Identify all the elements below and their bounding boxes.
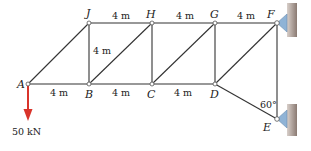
joint-b <box>87 82 91 86</box>
label-f: F <box>266 8 275 21</box>
load-label: 50 kN <box>12 126 41 137</box>
label-a: A <box>16 78 25 91</box>
member-df <box>215 23 277 84</box>
joint-d <box>213 82 217 86</box>
angle-label: 60° <box>260 99 277 110</box>
wall-top <box>287 3 297 37</box>
dim-ab: 4 m <box>50 87 68 98</box>
label-c: C <box>147 88 156 101</box>
dim-cd: 4 m <box>174 87 192 98</box>
truss-members <box>28 23 277 119</box>
joint-f <box>275 21 280 26</box>
label-h: H <box>145 8 156 21</box>
member-aj <box>28 23 89 84</box>
joint-h <box>150 21 154 25</box>
wall-bottom <box>287 104 297 136</box>
joint-g <box>213 21 217 25</box>
joint-c <box>150 82 154 86</box>
label-b: B <box>84 88 93 101</box>
dim-hg: 4 m <box>176 10 194 21</box>
dim-bc: 4 m <box>112 87 130 98</box>
label-e: E <box>262 121 271 134</box>
truss-diagram: A B C D E F G H J 4 m 4 m 4 m 4 m 4 m 4 … <box>0 0 311 151</box>
member-cg <box>152 23 215 84</box>
joint-a <box>26 82 30 86</box>
joint-e <box>275 117 280 122</box>
joint-j <box>87 21 91 25</box>
dim-jb: 4 m <box>93 45 111 56</box>
dim-jh: 4 m <box>112 10 130 21</box>
label-j: J <box>84 7 91 20</box>
dim-gf: 4 m <box>237 10 255 21</box>
label-d: D <box>209 88 219 101</box>
label-g: G <box>210 8 219 21</box>
